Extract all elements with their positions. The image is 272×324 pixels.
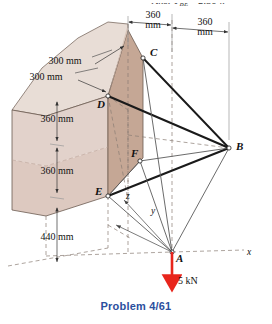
dim-label-vert-2: 360 mm — [21, 166, 93, 176]
point-label-A: A — [176, 253, 183, 264]
axis-label-y: y — [151, 207, 155, 217]
dim-unit-top-1: mm — [137, 20, 169, 30]
axis-z-line — [124, 200, 172, 252]
member-FB — [140, 148, 229, 161]
member-AB — [172, 148, 229, 252]
joint-E — [106, 194, 110, 198]
dim-unit-top-2: mm — [189, 27, 221, 37]
joint-B — [227, 146, 231, 150]
point-label-F: F — [131, 148, 138, 159]
member-AC — [143, 58, 172, 252]
hidden-ground-left — [8, 248, 108, 266]
hidden-ground-left2 — [46, 252, 172, 256]
axis-label-z: z — [126, 192, 130, 202]
dim-label-leader-2: 300 mm — [10, 72, 82, 82]
hidden-y-foot — [108, 225, 130, 238]
axis-label-x: x — [247, 248, 251, 258]
member-CB — [143, 58, 229, 148]
figure-container: Ans. TBE= 2.50 k B C D E F A x y z 360 m… — [0, 0, 272, 324]
dim-label-leader-1: 300 mm — [29, 56, 101, 66]
joint-F — [138, 159, 142, 163]
dim-label-top-2: 360 mm — [189, 17, 221, 37]
figure-caption: Problem 4/61 — [0, 300, 272, 312]
dim-label-vert-1: 360 mm — [21, 114, 93, 124]
dim-label-top-1: 360 mm — [137, 10, 169, 30]
point-label-D: D — [97, 99, 105, 110]
point-label-B: B — [236, 141, 243, 152]
dim-label-vert-3: 440 mm — [21, 232, 93, 242]
joint-C — [141, 56, 145, 60]
point-label-E: E — [95, 186, 102, 197]
load-label: 5 kN — [178, 276, 198, 286]
joint-D — [106, 94, 110, 98]
figure-drawing — [0, 0, 272, 324]
cut-off-text-mask — [0, 0, 272, 3]
point-label-C: C — [150, 47, 157, 58]
